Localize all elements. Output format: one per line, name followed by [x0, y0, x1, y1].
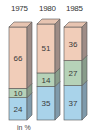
bar-1980: 351451	[37, 19, 60, 120]
stacked-bar-chart: 1975 1980 1985 241066351451372736 in %	[0, 0, 99, 133]
bar-1985: 372736	[64, 22, 87, 120]
bar-1975: 241066	[9, 22, 32, 120]
value-label: 66	[14, 54, 23, 63]
value-label: 35	[42, 99, 51, 108]
value-label: 14	[42, 76, 51, 85]
bars-area: 241066351451372736	[0, 0, 99, 133]
unit-label: in %	[17, 124, 31, 131]
value-label: 10	[14, 89, 23, 98]
value-label: 27	[69, 69, 78, 78]
value-label: 36	[69, 40, 78, 49]
value-label: 51	[42, 44, 51, 53]
value-label: 37	[69, 99, 78, 108]
value-label: 24	[14, 105, 23, 114]
